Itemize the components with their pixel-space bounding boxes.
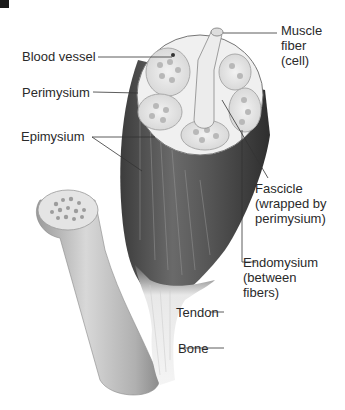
label-tendon: Tendon (176, 305, 219, 320)
label-fascicle-line3: perimysium) (255, 211, 327, 226)
label-fascicle-line2: (wrapped by (255, 196, 327, 211)
label-endomysium-line3: fibers) (243, 285, 318, 300)
label-endomysium: Endomysium (between fibers) (243, 255, 318, 300)
label-blood-vessel: Blood vessel (22, 49, 96, 64)
label-fascicle: Fascicle (wrapped by perimysium) (255, 181, 327, 226)
label-fascicle-line1: Fascicle (255, 181, 327, 196)
label-endomysium-line1: Endomysium (243, 255, 318, 270)
label-perimysium: Perimysium (22, 85, 90, 100)
label-muscle-fiber-line2: fiber (281, 38, 322, 53)
label-endomysium-line2: (between (243, 270, 318, 285)
muscle-cross-section (137, 28, 263, 155)
label-muscle-fiber-line3: (cell) (281, 53, 322, 68)
label-muscle-fiber: Muscle fiber (cell) (281, 23, 322, 68)
label-epimysium: Epimysium (21, 129, 85, 144)
label-bone: Bone (178, 341, 208, 356)
label-muscle-fiber-line1: Muscle (281, 23, 322, 38)
blood-vessel-dot (171, 53, 175, 57)
